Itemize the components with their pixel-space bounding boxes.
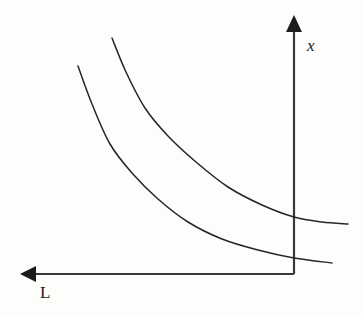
vertical-axis-label: x xyxy=(307,36,315,56)
curve-upper xyxy=(112,38,348,224)
left-arrow-icon xyxy=(20,266,36,282)
horizontal-axis-label: L xyxy=(40,283,50,303)
horizontal-axis-group xyxy=(20,266,294,282)
isoquant-diagram: x L xyxy=(0,0,363,317)
vertical-axis-group xyxy=(286,15,302,274)
up-arrow-icon xyxy=(286,15,302,32)
